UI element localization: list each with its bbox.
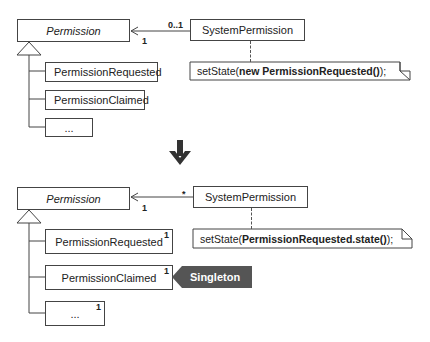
- class-name: PermissionRequested: [55, 236, 163, 248]
- multiplicity: 1: [164, 230, 169, 240]
- class-name: PermissionClaimed: [62, 272, 157, 284]
- note-text: setState(PermissionRequested.state());: [200, 233, 393, 245]
- class-name: ...: [70, 308, 79, 320]
- note-anchor: [251, 208, 252, 229]
- multiplicity: *: [182, 189, 186, 199]
- subclass-permission-requested: PermissionRequested: [45, 229, 173, 254]
- system-permission-class: SystemPermission: [193, 186, 308, 208]
- multiplicity: 1: [96, 302, 101, 312]
- multiplicity: 1: [164, 266, 169, 276]
- generalization-triangle-icon: [0, 0, 430, 342]
- subclass-permission-claimed: PermissionClaimed: [45, 265, 173, 290]
- class-name: SystemPermission: [205, 191, 296, 203]
- singleton-label: Singleton: [190, 271, 240, 283]
- multiplicity: 1: [142, 203, 147, 213]
- singleton-tag: Singleton: [172, 266, 252, 288]
